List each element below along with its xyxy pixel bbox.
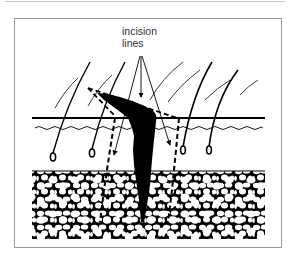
label-line-2: lines — [122, 37, 157, 49]
incision-lines-label: incision lines — [122, 25, 157, 49]
label-line-1: incision — [122, 25, 157, 37]
